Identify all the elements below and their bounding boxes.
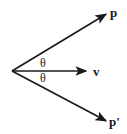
vector-label-v: v [93,65,100,78]
angle-label-theta-upper: θ [40,57,46,69]
vector-label-p: p [110,6,117,19]
vector-p-arrow [12,14,106,71]
vector-canvas [0,0,127,134]
vector-label-p-prime: p' [109,115,120,128]
vector-reflection-diagram: p v p' θ θ [0,0,127,134]
angle-label-theta-lower: θ [40,72,46,84]
vector-p-prime-arrow [12,71,106,121]
